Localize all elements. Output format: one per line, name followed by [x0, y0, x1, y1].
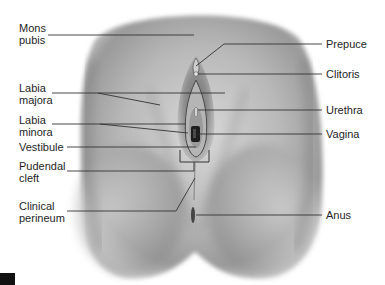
label-pudendal-cleft: Pudendal cleft [19, 160, 66, 184]
anatomy-diagram: Mons pubis Labia majora Labia minora Ves… [0, 0, 385, 285]
label-urethra: Urethra [326, 104, 363, 116]
corner-marker [0, 273, 15, 285]
label-labia-minora: Labia minora [19, 114, 53, 138]
label-anus: Anus [326, 209, 351, 221]
label-clinical-perineum: Clinical perineum [19, 200, 65, 224]
label-clitoris: Clitoris [326, 68, 360, 80]
label-prepuce: Prepuce [326, 38, 367, 50]
label-labia-majora: Labia majora [19, 82, 53, 106]
label-vestibule: Vestibule [19, 141, 64, 153]
label-mons-pubis: Mons pubis [19, 22, 46, 46]
label-vagina: Vagina [326, 128, 359, 140]
